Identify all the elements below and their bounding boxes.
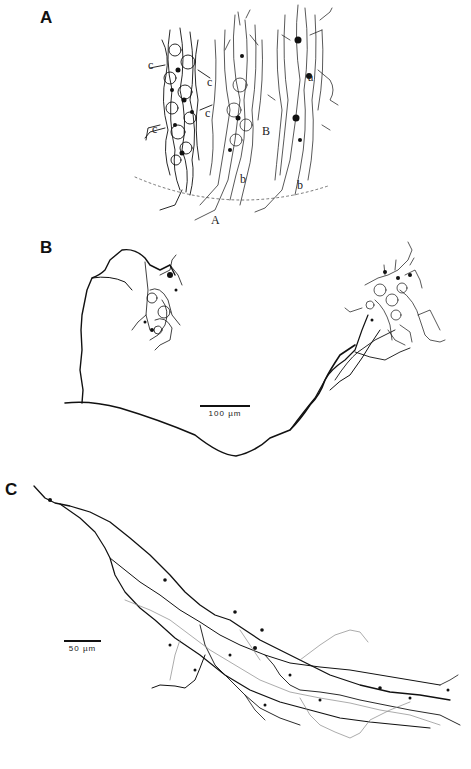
panel-a: A — [0, 0, 471, 230]
annotation-b-2: b — [297, 178, 303, 193]
annotation-c-4: c — [152, 122, 157, 137]
scale-bar-line — [200, 405, 250, 407]
scale-bar-100um: 100 µm — [200, 405, 250, 418]
annotation-a: a — [308, 70, 313, 85]
panel-b: B — [0, 230, 471, 470]
annotation-B: B — [262, 124, 270, 139]
scale-bar-label: 100 µm — [200, 409, 250, 418]
scale-bar-line — [64, 640, 101, 642]
annotation-c-3: c — [205, 106, 210, 121]
annotation-c-1: c — [148, 58, 153, 73]
annotation-A: A — [211, 213, 220, 228]
scale-bar-50um: 50 µm — [64, 640, 101, 653]
panel-c: C — [0, 470, 471, 769]
scale-bar-label: 50 µm — [64, 644, 101, 653]
panel-a-drawing — [0, 0, 471, 230]
annotation-b-1: b — [240, 172, 246, 187]
annotation-c-2: c — [207, 75, 212, 90]
panel-b-drawing — [0, 230, 471, 470]
panel-c-drawing — [0, 470, 471, 769]
